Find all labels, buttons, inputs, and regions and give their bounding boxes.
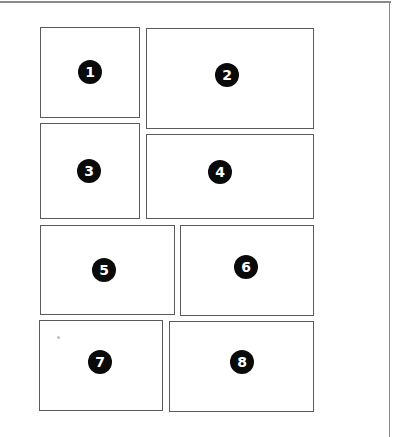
page-frame-top-line	[0, 1, 391, 3]
page-frame-right-line	[389, 1, 390, 437]
number-badge-1: 1	[78, 60, 102, 84]
number-badge-5: 5	[92, 258, 116, 282]
number-badge-3: 3	[77, 159, 101, 183]
number-badge-8: 8	[230, 350, 254, 374]
number-badge-7: 7	[88, 350, 112, 374]
stray-mark	[57, 336, 60, 339]
number-badge-2: 2	[215, 63, 239, 87]
number-badge-4: 4	[208, 160, 232, 184]
number-badge-6: 6	[234, 255, 258, 279]
